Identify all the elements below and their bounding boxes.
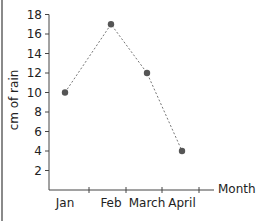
y-tick-label: 2	[34, 164, 42, 178]
y-tick-label: 4	[34, 144, 42, 158]
x-tick-label: April	[168, 196, 195, 210]
data-point	[144, 70, 150, 76]
x-tick-label: Feb	[100, 196, 121, 210]
x-axis-label: Month	[218, 182, 256, 196]
data-point	[179, 148, 185, 154]
data-point	[108, 21, 114, 27]
y-tick-label: 18	[27, 8, 42, 22]
y-axis-ticks: 24681012141618	[27, 8, 49, 178]
x-tick-label: March	[129, 196, 166, 210]
series-line	[65, 24, 182, 151]
y-tick-label: 12	[27, 66, 42, 80]
y-axis-label: cm of rain	[7, 70, 21, 131]
y-tick-label: 10	[27, 86, 42, 100]
x-tick-label: Jan	[55, 196, 75, 210]
y-tick-label: 16	[27, 27, 42, 41]
series-rainfall	[62, 21, 185, 154]
y-tick-label: 8	[34, 105, 42, 119]
y-tick-label: 14	[27, 47, 42, 61]
data-point	[62, 89, 68, 95]
axes	[49, 15, 214, 191]
line-chart: 24681012141618 JanFebMarchApril cm of ra…	[0, 0, 261, 221]
y-tick-label: 6	[34, 125, 42, 139]
